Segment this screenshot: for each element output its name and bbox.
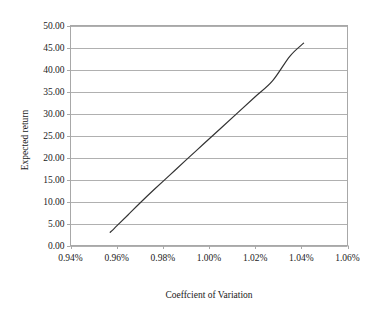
y-tick-label: 30.00 [43,109,65,119]
x-tick-label: 1.04% [289,253,314,263]
x-tick-label: 1.02% [243,253,268,263]
y-tick-label: 35.00 [43,87,65,97]
x-tick-label: 0.96% [104,253,129,263]
y-tick-label: 0.00 [48,241,65,251]
x-tick-label: 0.98% [151,253,176,263]
y-tick-label: 10.00 [43,197,65,207]
x-axis-title: Coeffcient of Variation [165,290,252,300]
chart-figure: 0.94%0.96%0.98%1.00%1.02%1.04%1.06% 0.00… [0,0,379,309]
y-tick-label: 50.00 [43,21,65,31]
x-tick-label: 0.94% [58,253,83,263]
x-tick-label: 1.00% [197,253,222,263]
y-tick-label: 40.00 [43,65,65,75]
y-tick-label: 15.00 [43,175,65,185]
y-tick-label: 5.00 [48,219,65,229]
line-chart: 0.94%0.96%0.98%1.00%1.02%1.04%1.06% 0.00… [0,0,379,309]
y-tick-label: 45.00 [43,43,65,53]
y-axis-title: Expected return [20,110,30,171]
x-tick-label: 1.06% [335,253,360,263]
y-tick-label: 25.00 [43,131,65,141]
y-tick-label: 20.00 [43,153,65,163]
